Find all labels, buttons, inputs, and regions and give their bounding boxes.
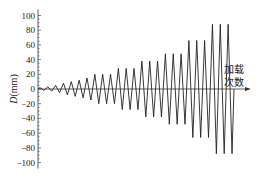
y-tick-label: −100 bbox=[16, 158, 35, 168]
y-tick-label: 0 bbox=[31, 84, 36, 94]
y-tick-label: −60 bbox=[21, 128, 36, 138]
y-axis-label: D(mm) bbox=[8, 74, 20, 104]
svg-text:D(mm): D(mm) bbox=[8, 74, 20, 104]
y-tick-label: −40 bbox=[21, 113, 36, 123]
y-tick-label: 60 bbox=[26, 40, 36, 50]
y-tick-label: 40 bbox=[26, 55, 36, 65]
x-axis-arrow-icon bbox=[245, 87, 251, 91]
y-tick-label: −20 bbox=[21, 99, 36, 109]
y-tick-label: 20 bbox=[26, 69, 36, 79]
y-tick-label: 100 bbox=[22, 11, 36, 21]
y-tick-label: 80 bbox=[26, 25, 36, 35]
y-tick-label: −80 bbox=[21, 143, 36, 153]
svg-text:次数: 次数 bbox=[224, 76, 244, 88]
y-axis: 100806040200−20−40−60−80−100 bbox=[16, 10, 41, 169]
displacement-history-chart: 100806040200−20−40−60−80−100 D(mm) 加载次数 bbox=[0, 0, 261, 182]
